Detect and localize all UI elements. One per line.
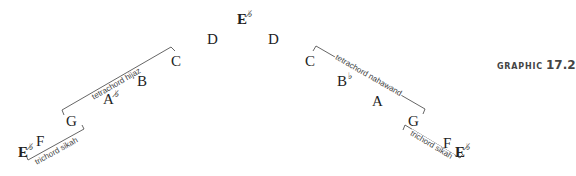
graphic-caption: GRAPHIC17.2	[497, 54, 576, 73]
half-flat-icon: ♭̸	[29, 142, 33, 152]
half-flat-icon: ♭̸	[248, 9, 252, 19]
graphic-word: GRAPHIC	[497, 62, 543, 71]
note-left-c: C	[171, 54, 181, 69]
note-right-g: G	[408, 114, 419, 129]
note-left-g: G	[66, 114, 77, 129]
note-right-e-half-flat: E♭̸	[455, 145, 470, 160]
note-left-e-half-flat: E♭̸	[18, 145, 33, 160]
note-left-f: F	[36, 134, 44, 149]
note-right-b-flat: B♭	[337, 74, 352, 89]
note-letter: E	[18, 144, 28, 160]
half-flat-icon: ♭̸	[466, 142, 470, 152]
note-top-e-half-flat: E♭̸	[237, 12, 252, 27]
note-right-d: D	[268, 32, 279, 47]
note-letter: E	[237, 11, 247, 27]
graphic-number: 17.2	[546, 58, 576, 72]
note-right-c: C	[305, 54, 315, 69]
flat-icon: ♭	[348, 71, 352, 81]
note-letter: B	[337, 73, 347, 89]
note-left-b: B	[137, 74, 147, 89]
note-right-a: A	[372, 94, 383, 109]
note-letter: E	[455, 144, 465, 160]
half-flat-icon: ♭̸	[115, 89, 119, 99]
note-left-d: D	[207, 32, 218, 47]
